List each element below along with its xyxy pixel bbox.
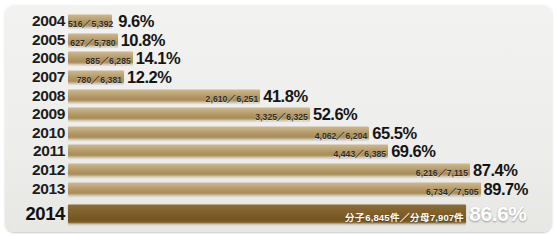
- percent-label-2007: 12.2%: [127, 68, 171, 87]
- bar-row-2007: 2007780／6,38112.2%: [5, 68, 552, 87]
- bar-labels-2012: 6,216／7,11587.4%: [416, 161, 517, 180]
- bar-row-2009: 20093,325／6,32552.6%: [5, 105, 552, 124]
- year-label-2004: 2004: [13, 12, 65, 30]
- bar-labels-2008: 2,610／6,25141.8%: [206, 86, 308, 105]
- bar-labels-2013: 6,734／7,50589.7%: [426, 179, 528, 198]
- bar-row-2004: 2004516／5,3929.6%: [5, 12, 552, 31]
- bar-row-2005: 2005627／5,78010.8%: [5, 31, 552, 50]
- fraction-label-2011: 4,443／6,385: [334, 147, 387, 159]
- bar-track: 分子6,845件／分母7,907件86.6%: [68, 201, 552, 227]
- bar-labels-2006: 885／6,28514.1%: [86, 49, 181, 68]
- year-label-2011: 2011: [13, 142, 65, 160]
- bar-track: 3,325／6,32552.6%: [68, 105, 552, 124]
- bar-track: 6,734／7,50589.7%: [68, 179, 552, 198]
- bar-labels-2005: 627／5,78010.8%: [70, 30, 165, 49]
- fraction-label-2010: 4,062／6,204: [315, 128, 368, 140]
- fraction-label-2004: 516／5,392: [68, 17, 113, 29]
- bar-labels-2009: 3,325／6,32552.6%: [255, 105, 357, 124]
- percent-label-2012: 87.4%: [473, 161, 517, 180]
- bar-row-2011: 20114,443／6,38569.6%: [5, 142, 552, 161]
- bar-track: 780／6,38112.2%: [68, 68, 552, 87]
- percent-label-2006: 14.1%: [136, 49, 180, 68]
- bar-labels-2014: 分子6,845件／分母7,907件86.6%: [345, 202, 526, 226]
- year-label-2009: 2009: [13, 105, 65, 123]
- bar-row-2008: 20082,610／6,25141.8%: [5, 86, 552, 105]
- bar-labels-2010: 4,062／6,20465.5%: [315, 123, 417, 142]
- year-label-2007: 2007: [13, 68, 65, 86]
- bar-2013: [68, 182, 481, 195]
- percent-label-2005: 10.8%: [121, 30, 165, 49]
- percent-label-2013: 89.7%: [484, 179, 528, 198]
- year-label-2006: 2006: [13, 49, 65, 67]
- bar-row-2006: 2006885／6,28514.1%: [5, 49, 552, 68]
- bar-row-2010: 20104,062／6,20465.5%: [5, 124, 552, 143]
- bar-track: 627／5,78010.8%: [68, 31, 552, 50]
- bar-labels-2004: 516／5,3929.6%: [68, 12, 154, 31]
- bar-2012: [68, 164, 470, 177]
- chart-panel: 2004516／5,3929.6%2005627／5,78010.8%20068…: [5, 4, 552, 232]
- percent-label-2010: 65.5%: [372, 123, 416, 142]
- bar-track: 516／5,3929.6%: [68, 12, 552, 31]
- fraction-label-2006: 885／6,285: [86, 54, 131, 66]
- bar-track: 4,062／6,20465.5%: [68, 124, 552, 143]
- bar-track: 6,216／7,11587.4%: [68, 161, 552, 180]
- fraction-label-2009: 3,325／6,325: [255, 110, 308, 122]
- bar-track: 885／6,28514.1%: [68, 49, 552, 68]
- fraction-label-2013: 6,734／7,505: [426, 184, 479, 196]
- year-label-2012: 2012: [13, 161, 65, 179]
- bar-row-2012: 20126,216／7,11587.4%: [5, 161, 552, 180]
- percent-label-2011: 69.6%: [391, 142, 435, 161]
- fraction-label-2014: 分子6,845件／分母7,907件: [345, 210, 464, 224]
- fraction-label-2007: 780／6,381: [77, 73, 122, 85]
- percent-label-2008: 41.8%: [263, 86, 307, 105]
- percent-label-2004: 9.6%: [118, 12, 154, 31]
- fraction-label-2012: 6,216／7,115: [416, 166, 468, 178]
- bar-track: 2,610／6,25141.8%: [68, 86, 552, 105]
- year-label-2005: 2005: [13, 31, 65, 49]
- year-label-2013: 2013: [13, 180, 65, 198]
- bar-row-2014: 2014分子6,845件／分母7,907件86.6%: [5, 201, 552, 227]
- bar-row-2013: 20136,734／7,50589.7%: [5, 179, 552, 198]
- bar-track: 4,443／6,38569.6%: [68, 142, 552, 161]
- year-label-2010: 2010: [13, 124, 65, 142]
- percent-label-2009: 52.6%: [313, 105, 357, 124]
- fraction-label-2008: 2,610／6,251: [206, 91, 259, 103]
- percent-label-2014: 86.6%: [469, 202, 526, 226]
- bar-labels-2007: 780／6,38112.2%: [77, 68, 172, 87]
- year-label-2008: 2008: [13, 87, 65, 105]
- bar-labels-2011: 4,443／6,38569.6%: [334, 142, 436, 161]
- fraction-label-2005: 627／5,780: [70, 35, 115, 47]
- bar-chart-rows: 2004516／5,3929.6%2005627／5,78010.8%20068…: [5, 4, 552, 232]
- year-label-2014: 2014: [9, 203, 65, 225]
